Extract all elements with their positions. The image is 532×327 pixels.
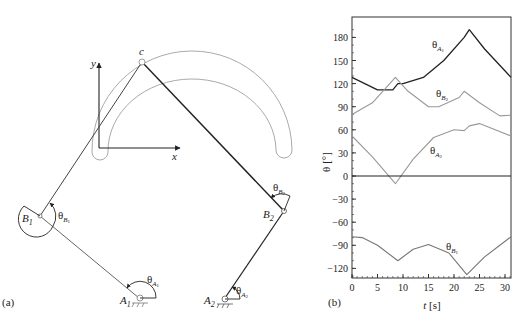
joint-c — [139, 59, 145, 65]
y-tick-label: 150 — [333, 56, 348, 67]
x-tick-label: 15 — [424, 282, 434, 293]
y-tick-label: 90 — [338, 102, 348, 113]
label-theta-b2: θB2 — [273, 181, 286, 196]
coordinate-axes — [99, 63, 180, 148]
x-tick-label: 25 — [475, 282, 485, 293]
x-tick-label: 20 — [449, 282, 459, 293]
label-b2: B2 — [263, 208, 274, 223]
link-c-b2 — [142, 62, 284, 211]
panel-a-mechanism: y x — [2, 45, 292, 309]
y-tick-label: 60 — [338, 125, 348, 136]
series-label-theta-b2: θB2 — [436, 87, 449, 102]
figure: y x — [0, 0, 532, 327]
series-label-theta-a2: θA2 — [430, 144, 443, 159]
label-a1: A1 — [119, 294, 131, 309]
x-tick-label: 0 — [350, 282, 355, 293]
angle-arc-b2 — [271, 194, 290, 211]
caption-a: (a) — [2, 296, 15, 309]
series-label-theta-a1: θA1 — [432, 38, 445, 53]
label-c: c — [139, 45, 144, 57]
x-tick-label: 30 — [500, 282, 510, 293]
y-tick-label: −30 — [332, 194, 348, 205]
y-tick-label: 30 — [338, 148, 348, 159]
x-tick-label: 10 — [398, 282, 408, 293]
ground-pivot-a1 — [132, 295, 148, 307]
label-theta-a2: θA2 — [236, 284, 249, 299]
y-tick-label: −90 — [332, 240, 348, 251]
caption-b: (b) — [328, 296, 341, 309]
y-tick-label: −120 — [327, 263, 348, 274]
ground-pivot-a2 — [217, 296, 233, 308]
label-theta-b1: θB1 — [58, 209, 71, 224]
series-θB1 — [352, 237, 511, 275]
x-axis-label: x — [171, 150, 177, 162]
x-axis-title: t [s] — [423, 299, 440, 311]
link-b1-c — [40, 62, 142, 216]
y-tick-label: 120 — [333, 79, 348, 90]
label-b1: B1 — [22, 212, 33, 227]
y-axis-title: θ [°] — [320, 152, 332, 172]
y-tick-label: 0 — [343, 171, 348, 182]
label-a2: A2 — [203, 294, 215, 309]
link-a2-b2 — [225, 211, 284, 298]
label-theta-a1: θA1 — [147, 273, 160, 288]
y-tick-label: −60 — [332, 217, 348, 228]
panel-b-plot: −120−90−60−300306090120150180 0510152025… — [320, 17, 511, 311]
series-θB2 — [352, 77, 511, 116]
link-a1-b1 — [40, 216, 139, 298]
y-tick-label: 180 — [333, 32, 348, 43]
workspace-outline — [92, 51, 292, 160]
x-tick-label: 5 — [375, 282, 380, 293]
x-ticks: 051015202530 — [350, 274, 511, 293]
y-axis-label: y — [90, 57, 96, 69]
